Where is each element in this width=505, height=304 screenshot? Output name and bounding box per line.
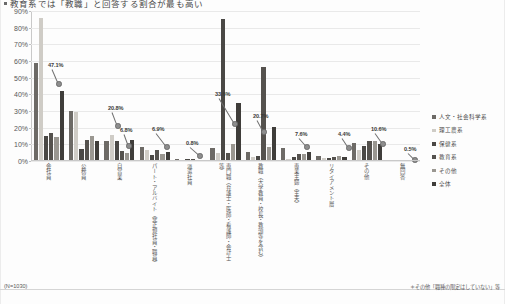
x-axis-label-text: 専門職（弁護士・医師・看護師・会計士等） [219,163,233,268]
legend-swatch-icon [432,129,436,133]
data-label: 6.8% [120,127,132,133]
legend-label: 教育系 [439,153,457,161]
bar[interactable] [362,146,366,161]
x-axis-label: 自営業 [102,163,137,273]
bar[interactable] [110,135,114,161]
callout-dot-icon [232,121,237,126]
bar[interactable] [49,133,53,161]
bar[interactable] [352,143,356,161]
legend-label: 全体 [439,180,451,188]
bar[interactable] [272,127,276,162]
bar[interactable] [267,147,271,161]
legend-label: 理工農系 [439,126,463,134]
y-axis-tick-label: 40% [14,91,28,98]
callout-dot-icon [126,143,131,148]
x-axis-label-text: リタイアメント層 [328,163,335,206]
page-title: 教育系では「教職」と回答する割合が最も高い [4,0,203,9]
x-axis [31,160,420,161]
y-axis-tick-label: 0% [18,158,28,165]
legend-swatch-icon [432,142,436,146]
data-label: 20.7% [253,113,268,119]
bar[interactable] [34,63,38,161]
x-axis-label: 専業主婦（主夫） [279,163,314,273]
x-axis-label: その他 [349,163,384,273]
legend-swatch-icon [432,155,436,159]
sample-size-note: (N=1030) [4,283,27,289]
x-axis-label: 専門職（弁護士・医師・看護師・会計士等） [208,163,243,273]
bar-group [102,11,137,161]
y-axis-tick-label: 10% [14,141,28,148]
chart-title-strip: 教育系では「教職」と回答する割合が最も高い [0,0,505,9]
bar-group [172,11,207,161]
data-label: 20.8% [108,105,123,111]
data-label: 33.6% [215,91,230,97]
bar[interactable] [69,111,73,161]
x-axis-label: 教職（大学教員・校長・教頭等を含む） [243,163,278,273]
x-axis-label-text: その他 [364,163,371,179]
data-label: 10.6% [371,126,386,132]
bullet-icon [4,2,7,5]
data-label: 4.4% [338,131,350,137]
bar-groups [31,11,420,161]
bar[interactable] [85,140,89,161]
bar[interactable] [44,136,48,161]
x-axis-label-text: パート・アルバイト（非正規社員・職員） [151,163,158,266]
legend-swatch-icon [432,115,436,119]
legend-swatch-icon [432,182,436,186]
bar-group [385,11,420,161]
y-axis-tick-label: 50% [14,74,28,81]
chart-page: 教育系では「教職」と回答する割合が最も高い 90%80%70%60%50%40%… [0,0,505,304]
x-axis-label-text: 自営業 [116,163,123,179]
y-axis-tick-label: 20% [14,124,28,131]
x-axis-label: リタイアメント層 [314,163,349,273]
bar[interactable] [231,144,235,161]
bar[interactable] [373,141,377,161]
callout-dot-icon [380,141,385,146]
bar[interactable] [236,103,240,161]
plot-area: 90%80%70%60%50%40%30%20%10%0% 47.1%20.8%… [31,11,420,161]
bar[interactable] [95,141,99,161]
y-axis-tick-mark [29,161,31,162]
bar[interactable] [140,147,144,161]
bar[interactable] [74,112,78,161]
legend-label: 保健系 [439,140,457,148]
bar[interactable] [90,136,94,161]
bar-group [208,11,243,161]
y-axis-tick-label: 80% [14,24,28,31]
x-axis-label: 無回答 [385,163,420,273]
y-axis-tick-label: 70% [14,41,28,48]
bar[interactable] [39,18,43,161]
y-axis-tick-label: 60% [14,58,28,65]
x-axis-label: 会社員 [31,163,66,273]
bar[interactable] [210,148,214,161]
legend-item[interactable]: 人文・社会科学系 [432,113,487,121]
callout-dot-icon [346,145,351,150]
legend-item[interactable]: 全体 [432,180,487,188]
x-axis-label-text: 専業主婦（主夫） [293,163,300,206]
callout-dot-icon [56,81,61,86]
bar[interactable] [104,141,108,161]
bar[interactable] [54,137,58,161]
legend-label: その他 [439,167,457,175]
gridline [31,161,420,162]
legend-item[interactable]: その他 [432,167,487,175]
legend-item[interactable]: 理工農系 [432,126,487,134]
bar-group [137,11,172,161]
legend-swatch-icon [432,169,436,173]
page-left-edge [0,0,1,304]
callout-dot-icon [261,129,266,134]
x-axis-label-text: 教職（大学教員・校長・教頭等を含む） [257,163,264,260]
chart-legend: 人文・社会科学系理工農系保健系教育系その他全体 [432,113,487,188]
data-label: 0.8% [186,140,198,146]
bar[interactable] [367,141,371,161]
legend-item[interactable]: 教育系 [432,153,487,161]
bar[interactable] [115,141,119,161]
y-axis-tick-label: 30% [14,108,28,115]
x-axis-label-text: 会社員 [45,163,52,179]
y-axis-tick-label: 90% [14,8,28,15]
bar[interactable] [60,91,64,161]
callout-dot-icon [164,144,169,149]
x-axis-label: パート・アルバイト（非正規社員・職員） [137,163,172,273]
x-axis-labels: 会社員公務員自営業パート・アルバイト（非正規社員・職員）派遣社員専門職（弁護士・… [31,163,420,273]
legend-item[interactable]: 保健系 [432,140,487,148]
